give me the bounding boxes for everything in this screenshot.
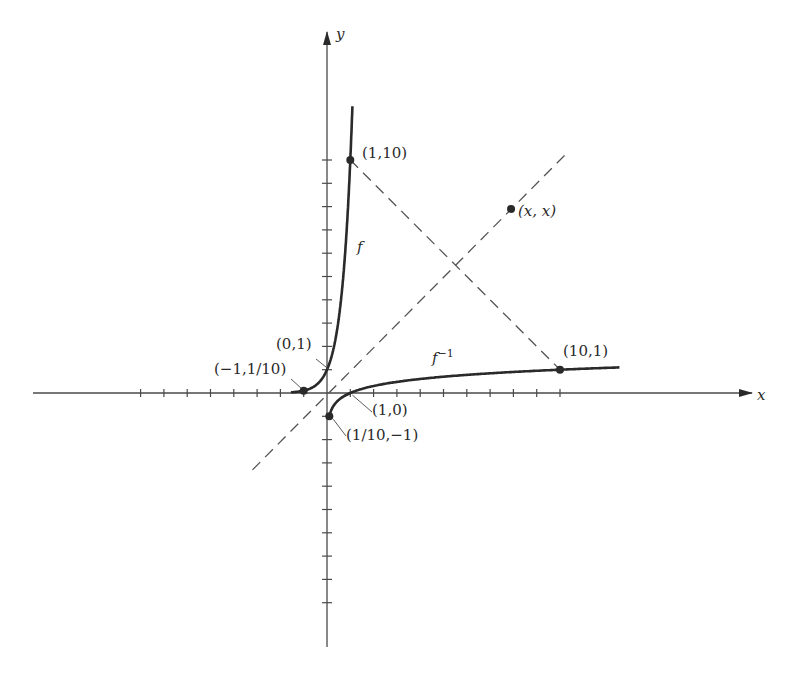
point-marker xyxy=(346,156,354,164)
point-marker xyxy=(556,366,564,374)
y-axis-label: y xyxy=(336,27,344,42)
point-label-0-1: (0,1) xyxy=(276,337,312,352)
point-label-x-x: (x, x) xyxy=(518,204,556,219)
axes xyxy=(33,32,752,647)
axis-ticks xyxy=(141,160,560,603)
plot-area xyxy=(0,0,790,673)
leader-line xyxy=(352,395,372,412)
point-label-1-10-minus1: (1/10,−1) xyxy=(346,428,418,443)
leader-line xyxy=(316,359,328,369)
point-label-1-10: (1,10) xyxy=(362,146,407,161)
f-inverse-exponent: −1 xyxy=(438,347,454,360)
point-marker xyxy=(300,387,308,395)
point-label-minus1-1-10: (−1,1/10) xyxy=(214,362,286,377)
x-axis-label: x xyxy=(757,388,765,403)
leader-line xyxy=(333,419,346,436)
point-marker xyxy=(507,205,515,213)
reflection-segment-line xyxy=(350,160,560,370)
point-label-1-0: (1,0) xyxy=(372,403,408,418)
leader-line xyxy=(291,379,302,389)
curves xyxy=(291,106,620,418)
f-inverse-curve-label: f−1 xyxy=(432,348,454,366)
point-label-10-1: (10,1) xyxy=(563,344,608,359)
f-curve-label: f xyxy=(357,240,363,255)
leader-lines xyxy=(291,359,372,436)
point-marker xyxy=(325,412,333,420)
